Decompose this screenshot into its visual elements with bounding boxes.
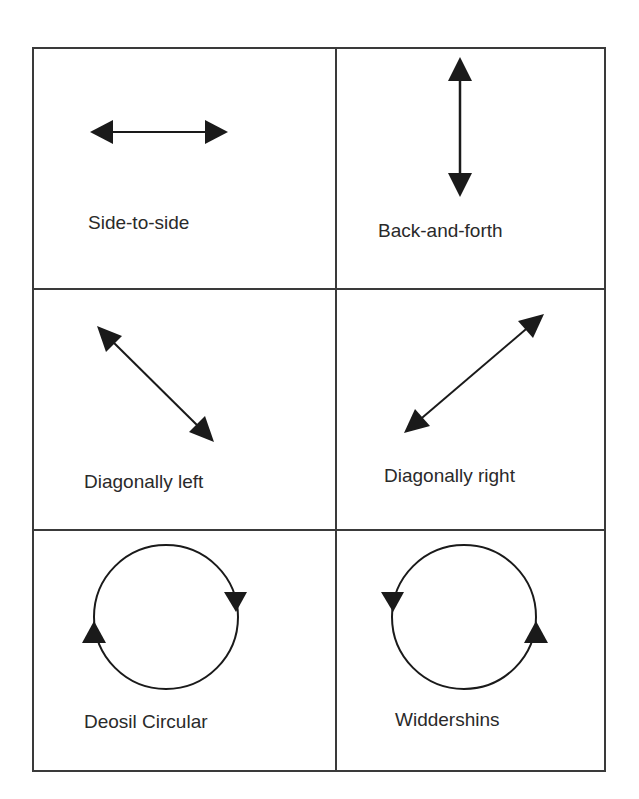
diagram-canvas: [0, 0, 639, 799]
cell-label-deosil-circular: Deosil Circular: [84, 711, 208, 733]
counterclockwise-circle-icon: [381, 545, 548, 689]
diagonal-right-double-arrow-icon: [404, 314, 544, 433]
horizontal-double-arrow-icon: [90, 120, 228, 144]
cell-label-diagonally-left: Diagonally left: [84, 471, 203, 493]
motion-diagram: Side-to-side Back-and-forth Diagonally l…: [0, 0, 639, 799]
clockwise-circle-icon: [82, 545, 247, 689]
cell-label-side-to-side: Side-to-side: [88, 212, 189, 234]
cell-label-diagonally-right: Diagonally right: [384, 465, 515, 487]
cell-label-widdershins: Widdershins: [395, 709, 500, 731]
cell-label-back-and-forth: Back-and-forth: [378, 220, 503, 242]
diagonal-left-double-arrow-icon: [97, 326, 214, 442]
vertical-double-arrow-icon: [448, 57, 472, 197]
